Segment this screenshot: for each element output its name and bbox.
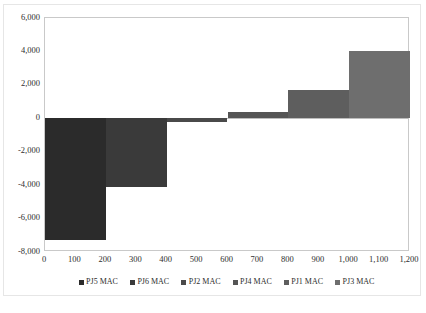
x-tick-label: 900 <box>311 254 324 264</box>
plot-area <box>44 17 409 251</box>
x-tick-label: 1,100 <box>369 254 388 264</box>
y-tick-label: -2,000 <box>0 146 40 155</box>
bar-pj1-mac <box>288 90 349 118</box>
x-axis: 01002003004005006007008009001,0001,1001,… <box>44 254 409 266</box>
bars-layer <box>45 18 408 250</box>
x-tick-label: 1,000 <box>339 254 358 264</box>
y-tick-label: -4,000 <box>0 180 40 189</box>
legend-item-pj2-mac[interactable]: PJ2 MAC <box>181 277 220 287</box>
x-tick-label: 100 <box>68 254 81 264</box>
y-axis: 6,0004,0002,0000-2,000-4,000-6,000-8,000 <box>0 0 40 313</box>
bar-pj2-mac <box>167 118 228 122</box>
legend-swatch-icon <box>79 280 84 285</box>
y-tick-label: 6,000 <box>0 13 40 22</box>
y-tick-label: 0 <box>0 113 40 122</box>
x-tick-label: 300 <box>129 254 142 264</box>
x-tick-label: 1,200 <box>399 254 418 264</box>
legend-swatch-icon <box>130 280 135 285</box>
waterfall-chart: 6,0004,0002,0000-2,000-4,000-6,000-8,000… <box>0 0 426 313</box>
legend-label: PJ4 MAC <box>240 277 272 287</box>
x-tick-label: 500 <box>190 254 203 264</box>
legend-label: PJ6 MAC <box>137 277 169 287</box>
legend-swatch-icon <box>284 280 289 285</box>
legend-swatch-icon <box>335 280 340 285</box>
legend-item-pj3-mac[interactable]: PJ3 MAC <box>335 277 374 287</box>
x-tick-label: 400 <box>159 254 172 264</box>
y-tick-label: 4,000 <box>0 46 40 55</box>
bar-pj3-mac <box>349 51 410 119</box>
legend-swatch-icon <box>181 280 186 285</box>
legend-swatch-icon <box>233 280 238 285</box>
x-tick-label: 600 <box>220 254 233 264</box>
y-tick-label: -8,000 <box>0 247 40 256</box>
legend-item-pj1-mac[interactable]: PJ1 MAC <box>284 277 323 287</box>
legend-item-pj4-mac[interactable]: PJ4 MAC <box>233 277 272 287</box>
x-tick-label: 800 <box>281 254 294 264</box>
bar-pj6-mac <box>106 118 167 187</box>
y-tick-label: 2,000 <box>0 79 40 88</box>
bar-pj5-mac <box>45 118 106 240</box>
chart-legend: PJ5 MACPJ6 MACPJ2 MACPJ4 MACPJ1 MACPJ3 M… <box>44 275 409 289</box>
legend-label: PJ5 MAC <box>86 277 118 287</box>
legend-item-pj6-mac[interactable]: PJ6 MAC <box>130 277 169 287</box>
x-tick-label: 700 <box>251 254 264 264</box>
x-tick-label: 200 <box>98 254 111 264</box>
x-tick-label: 0 <box>42 254 46 264</box>
legend-label: PJ1 MAC <box>291 277 323 287</box>
legend-item-pj5-mac[interactable]: PJ5 MAC <box>79 277 118 287</box>
bar-pj4-mac <box>228 112 289 119</box>
legend-label: PJ2 MAC <box>189 277 221 287</box>
legend-label: PJ3 MAC <box>343 277 375 287</box>
y-tick-label: -6,000 <box>0 213 40 222</box>
